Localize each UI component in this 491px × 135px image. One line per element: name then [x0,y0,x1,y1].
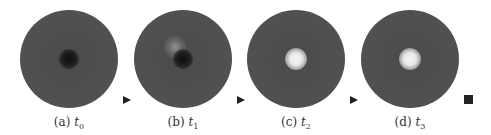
caption: (a) t0 [20,115,118,131]
dark-spot [59,49,79,69]
stop-square-icon [464,95,473,104]
disc-image [247,10,345,108]
play-triangle-icon [237,96,245,104]
panel-d: (d) t3 [361,8,461,133]
caption: (c) t2 [247,115,345,131]
bright-spot [399,48,421,70]
panel-b: (b) t1 [134,8,234,133]
panel-c: (c) t2 [247,8,347,133]
disc-image [134,10,232,108]
play-triangle-icon [350,96,358,104]
disc-image [20,10,118,108]
caption: (d) t3 [361,115,459,131]
caption: (b) t1 [134,115,232,131]
dark-spot [173,49,193,69]
play-triangle-icon [123,96,131,104]
disc-image [361,10,459,108]
panel-a: (a) t0 [20,8,120,133]
bright-spot [285,48,307,70]
